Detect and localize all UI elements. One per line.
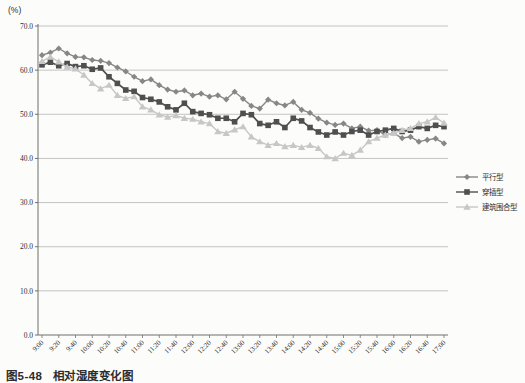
svg-text:16:00: 16:00	[380, 338, 397, 355]
svg-text:15:20: 15:20	[347, 338, 364, 355]
svg-text:17:00: 17:00	[430, 338, 447, 355]
svg-text:15:00: 15:00	[330, 338, 347, 355]
y-axis-ticks: 0.010.020.030.040.050.060.070.0	[20, 22, 38, 340]
legend-entry: 建筑围合型	[456, 202, 518, 212]
svg-text:0.0: 0.0	[24, 331, 34, 340]
svg-text:13:40: 13:40	[263, 338, 280, 355]
figure-caption: 图5-48相对湿度变化图	[6, 367, 133, 383]
svg-text:16:40: 16:40	[414, 338, 431, 355]
legend-entry: 平行型	[456, 172, 504, 182]
svg-text:13:20: 13:20	[246, 338, 263, 355]
humidity-line-chart: (%)0.010.020.030.040.050.060.070.09:009:…	[0, 0, 525, 360]
svg-text:50.0: 50.0	[20, 110, 33, 119]
legend-label: 穿插型	[482, 187, 504, 197]
legend-label: 建筑围合型	[482, 202, 518, 212]
svg-text:60.0: 60.0	[20, 66, 33, 75]
svg-text:14:40: 14:40	[313, 338, 330, 355]
svg-text:14:00: 14:00	[280, 338, 297, 355]
svg-text:70.0: 70.0	[20, 22, 33, 31]
svg-text:11:00: 11:00	[129, 338, 146, 355]
svg-text:12:00: 12:00	[179, 338, 196, 355]
svg-text:11:20: 11:20	[146, 338, 163, 355]
legend: 平行型穿插型建筑围合型	[456, 172, 518, 212]
svg-text:12:40: 12:40	[213, 338, 230, 355]
figure-title: 相对湿度变化图	[53, 370, 134, 382]
svg-text:10:00: 10:00	[79, 338, 96, 355]
svg-text:20.0: 20.0	[20, 242, 33, 251]
svg-text:9:00: 9:00	[31, 338, 46, 353]
legend-entry: 穿插型	[456, 187, 504, 197]
legend-label: 平行型	[482, 172, 504, 182]
svg-text:9:20: 9:20	[48, 338, 63, 353]
svg-text:40.0: 40.0	[20, 154, 33, 163]
svg-text:12:20: 12:20	[196, 338, 213, 355]
svg-text:9:40: 9:40	[64, 338, 79, 353]
svg-text:16:20: 16:20	[397, 338, 414, 355]
svg-text:10:20: 10:20	[95, 338, 112, 355]
svg-text:10.0: 10.0	[20, 287, 33, 296]
x-axis-ticks: 9:009:209:4010:0010:2010:4011:0011:2011:…	[31, 335, 448, 356]
svg-text:(%): (%)	[8, 5, 21, 15]
svg-text:10:40: 10:40	[112, 338, 129, 355]
svg-text:13:00: 13:00	[229, 338, 246, 355]
svg-text:14:20: 14:20	[296, 338, 313, 355]
svg-text:11:40: 11:40	[163, 338, 180, 355]
y-axis-unit-label: (%)	[8, 5, 21, 15]
svg-text:30.0: 30.0	[20, 198, 33, 207]
figure-number: 图5-48	[6, 370, 43, 382]
svg-text:15:40: 15:40	[363, 338, 380, 355]
